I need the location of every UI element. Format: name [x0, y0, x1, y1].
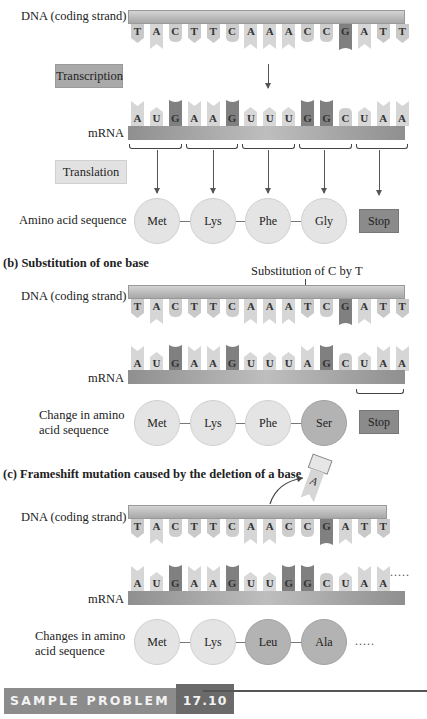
mrna-base-letter: G	[226, 357, 239, 369]
mrna-base-letter: U	[150, 357, 163, 369]
dna-base-T: T	[131, 24, 144, 51]
dna-base-letter: G	[339, 25, 352, 37]
mrna-base-letter: A	[207, 357, 220, 369]
dna-base-letter: T	[188, 25, 201, 37]
mrna-base-A: A	[131, 98, 144, 126]
amino-acid-phe: Phe	[245, 198, 291, 244]
mrna-base-letter: A	[377, 577, 390, 589]
dna-base-A: A	[282, 299, 295, 326]
mrna-base-G: G	[169, 563, 182, 591]
dna-base-T: T	[377, 24, 390, 51]
stop-codon-brace-b	[356, 389, 404, 394]
peptide-bond	[180, 642, 190, 643]
mrna-base-A: A	[396, 98, 409, 126]
mrna-base-A: A	[188, 343, 201, 371]
dna-base-C: C	[226, 519, 239, 546]
transcription-label: Transcription	[55, 64, 123, 88]
amino-acid-ala: Ala	[301, 619, 347, 665]
mrna-base-letter: A	[396, 357, 409, 369]
dna-base-letter: T	[131, 300, 144, 312]
amino-acid-met: Met	[134, 198, 180, 244]
dna-base-letter: A	[263, 520, 276, 532]
dna-base-T: T	[396, 24, 409, 51]
dna-base-letter: T	[358, 520, 371, 532]
dna-label-a: DNA (coding strand)	[21, 9, 127, 24]
amino-acid-met: Met	[134, 400, 180, 446]
mrna-base-U: U	[263, 563, 276, 591]
dna-base-letter: T	[131, 520, 144, 532]
mrna-base-A: A	[207, 98, 220, 126]
dna-base-A: A	[263, 519, 276, 546]
mrna-base-G: G	[226, 98, 239, 126]
dna-base-C: C	[282, 519, 295, 546]
translation-arrow	[213, 150, 214, 193]
mrna-strand-b	[128, 370, 405, 384]
mrna-base-G: G	[226, 563, 239, 591]
dna-base-A: A	[244, 299, 257, 326]
mrna-base-letter: G	[169, 577, 182, 589]
dna-base-letter: C	[226, 300, 239, 312]
dna-base-A: A	[150, 24, 163, 51]
mrna-base-A: A	[377, 563, 390, 591]
mrna-base-letter: U	[150, 112, 163, 124]
peptide-bond	[180, 423, 190, 424]
dna-base-T: T	[131, 299, 144, 326]
mrna-base-U: U	[282, 98, 295, 126]
mrna-base-letter: U	[282, 112, 295, 124]
dna-base-A: A	[150, 299, 163, 326]
dna-base-letter: T	[377, 520, 390, 532]
mrna-base-U: U	[150, 563, 163, 591]
translation-arrow	[379, 150, 380, 195]
aa-label-b-line1: Change in amino	[39, 408, 124, 423]
dna-base-A: A	[358, 299, 371, 326]
aa-label-c-line2: acid sequence	[35, 644, 105, 659]
mrna-base-letter: A	[188, 357, 201, 369]
mrna-base-letter: U	[244, 577, 257, 589]
dna-base-G: G	[339, 24, 352, 51]
mrna-base-A: A	[396, 343, 409, 371]
dna-base-letter: G	[339, 300, 352, 312]
dna-base-letter: G	[320, 520, 333, 532]
dna-base-letter: C	[169, 300, 182, 312]
mrna-base-U: U	[263, 343, 276, 371]
peptide-bond	[236, 423, 245, 424]
dna-base-A: A	[339, 519, 352, 546]
aa-label-c-line1: Changes in amino	[35, 629, 125, 644]
mrna-base-letter: U	[150, 577, 163, 589]
dna-base-letter: A	[244, 520, 257, 532]
mrna-base-letter: G	[169, 112, 182, 124]
peptide-bond	[236, 221, 245, 222]
mrna-base-letter: U	[358, 112, 371, 124]
dna-base-letter: A	[358, 25, 371, 37]
mrna-base-C: C	[339, 98, 352, 126]
codon-brace	[356, 144, 409, 149]
mrna-base-letter: A	[207, 112, 220, 124]
sample-problem-title: SAMPLE PROBLEM	[4, 688, 176, 714]
dna-base-letter: A	[358, 300, 371, 312]
mrna-continuation-c: .....	[390, 565, 410, 580]
dna-base-C: C	[226, 299, 239, 326]
mrna-base-A: A	[358, 563, 371, 591]
mrna-base-letter: A	[301, 357, 314, 369]
aa-label-b-line2: acid sequence	[39, 423, 109, 438]
dna-base-A: A	[244, 24, 257, 51]
mrna-base-letter: U	[263, 112, 276, 124]
dna-base-letter: A	[244, 25, 257, 37]
dna-strand-a	[128, 10, 405, 24]
mrna-base-A: A	[188, 98, 201, 126]
amino-acid-leu: Leu	[245, 619, 291, 665]
mrna-base-A: A	[207, 343, 220, 371]
mrna-base-G: G	[320, 343, 333, 371]
mrna-base-letter: G	[169, 357, 182, 369]
dna-base-T: T	[377, 299, 390, 326]
dna-base-A: A	[358, 24, 371, 51]
substitution-annotation: Substitution of C by T	[251, 264, 363, 279]
codon-brace	[242, 144, 295, 149]
dna-base-letter: T	[301, 300, 314, 312]
transcription-arrow	[268, 64, 269, 88]
mrna-label-c: mRNA	[88, 592, 124, 607]
mrna-base-letter: C	[320, 577, 333, 589]
dna-base-T: T	[207, 299, 220, 326]
aa-continuation-c: .....	[355, 634, 375, 649]
mrna-base-letter: U	[282, 357, 295, 369]
